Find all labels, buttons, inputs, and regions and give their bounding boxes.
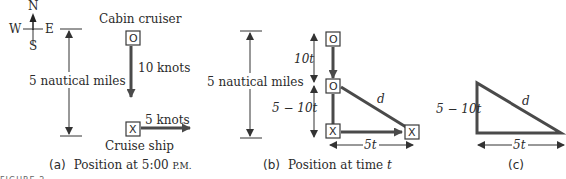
caption-b-letter: (b)	[263, 158, 280, 172]
cabin-cruiser-label: Cabin cruiser	[99, 12, 182, 26]
caption-a-letter: (a)	[49, 158, 66, 172]
vertical-label: 5 − 10t	[436, 102, 482, 116]
compass-south: S	[29, 39, 37, 53]
compass-east: E	[45, 22, 54, 36]
cruiser-speed-label: 10 knots	[138, 61, 190, 75]
distance-d-line	[341, 87, 406, 127]
hypotenuse-label: d	[522, 94, 530, 108]
distance-label: 5 nautical miles	[29, 74, 126, 88]
hypotenuse-label: d	[377, 92, 385, 106]
panel-b: 5 nautical miles 10t 5 − 10t O O d X X 5…	[206, 31, 419, 172]
compass-north: N	[28, 0, 39, 13]
base-label: 5t	[513, 138, 526, 152]
caption-b: (b) Position at time t	[263, 155, 392, 172]
compass-west: W	[9, 22, 22, 36]
figure-label: FIGURE 2	[0, 176, 45, 179]
right-triangle	[477, 83, 561, 133]
ship-time-t-symbol: X	[408, 126, 416, 139]
caption-a-pm: P.M.	[173, 161, 192, 171]
caption-b-text: Position at time	[288, 158, 387, 172]
cruiser-time-t-symbol: O	[329, 80, 338, 93]
cabin-cruiser-symbol: O	[129, 32, 138, 45]
caption-a-text: Position at 5:00	[74, 158, 173, 172]
cruise-ship-label: Cruise ship	[105, 139, 174, 153]
panel-a: 5 nautical miles Cabin cruiser O 10 knot…	[29, 12, 192, 172]
compass-rose-icon: N S E W	[9, 0, 54, 53]
panel-c: 5 − 10t d 5t (c)	[436, 83, 564, 172]
caption-c: (c)	[508, 158, 524, 172]
cruiser-start-symbol: O	[329, 33, 338, 46]
upper-segment-label: 10t	[294, 52, 314, 66]
cruise-ship-symbol: X	[129, 123, 137, 136]
ship-start-symbol: X	[329, 125, 337, 138]
lower-segment-label: 5 − 10t	[272, 101, 318, 115]
ship-speed-label: 5 knots	[145, 113, 190, 127]
caption-a: (a) Position at 5:00 P.M.	[49, 155, 192, 172]
caption-b-var: t	[387, 158, 392, 172]
boat-distance-diagram: N S E W 5 nautical miles Cabin cruiser O…	[0, 0, 566, 179]
base-label: 5t	[364, 138, 377, 152]
distance-label: 5 nautical miles	[207, 75, 304, 89]
